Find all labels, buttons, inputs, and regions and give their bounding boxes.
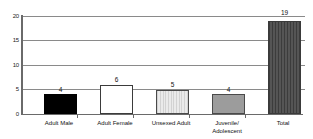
category-label-adult-male: Adult Male (28, 120, 90, 128)
plot-area (22, 16, 298, 114)
y-tick-label-0: 0 (0, 111, 19, 117)
x-axis-tick-1 (77, 114, 78, 118)
x-axis-tick-3 (189, 114, 190, 118)
y-tick-label-5: 5 (0, 86, 19, 92)
value-label-adult-male: 4 (44, 86, 77, 93)
y-tick-label-20: 20 (0, 13, 19, 19)
bar-chart: 20 15 10 5 0 4 6 5 4 19 Adult Male Adult… (0, 0, 313, 139)
y-tick-label-10: 10 (0, 62, 19, 68)
bar-adult-female (100, 85, 133, 114)
bar-adult-male (44, 94, 77, 114)
bar-unsexed-adult (156, 90, 189, 115)
bar-total (268, 21, 301, 114)
category-label-adult-female: Adult Female (84, 120, 146, 128)
x-axis-tick-4 (245, 114, 246, 118)
category-label-unsexed-adult: Unsexed Adult (140, 120, 202, 128)
category-label-juvenile-adolescent: Juvenile/ Adolescent (196, 120, 258, 135)
value-label-unsexed-adult: 5 (156, 81, 189, 88)
value-label-total: 19 (268, 9, 301, 16)
value-label-adult-female: 6 (100, 76, 133, 83)
y-tick-label-15: 15 (0, 37, 19, 43)
x-axis-tick-2 (133, 114, 134, 118)
category-label-total: Total (252, 120, 313, 128)
bar-juvenile-adolescent (212, 94, 245, 114)
value-label-juvenile-adolescent: 4 (212, 86, 245, 93)
